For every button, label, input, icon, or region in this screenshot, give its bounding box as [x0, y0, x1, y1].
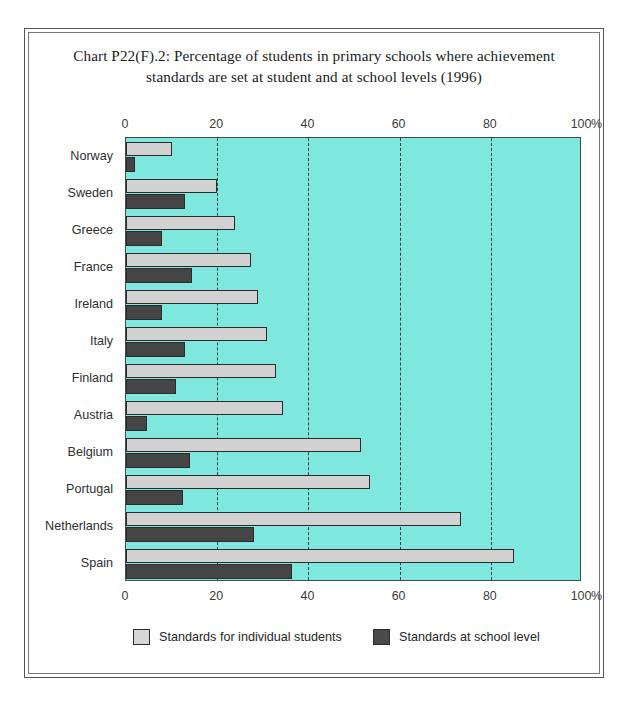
bar-individual-students	[126, 364, 276, 379]
x-tick-label: 100	[571, 117, 592, 131]
bar-group	[126, 360, 580, 397]
category-label-ireland: Ireland	[74, 297, 113, 311]
bar-school-level	[126, 490, 183, 505]
bar-school-level	[126, 231, 162, 246]
x-tick-label: 40	[300, 117, 314, 131]
bar-school-level	[126, 157, 135, 172]
x-axis-unit-label: %	[591, 589, 602, 603]
bar-school-level	[126, 453, 190, 468]
category-label-france: France	[74, 260, 113, 274]
legend-entry: Standards at school level	[373, 629, 540, 645]
category-label-greece: Greece	[72, 223, 113, 237]
category-label-spain: Spain	[81, 556, 113, 570]
bar-individual-students	[126, 401, 283, 416]
category-label-norway: Norway	[70, 149, 113, 163]
x-tick-label: 60	[392, 589, 406, 603]
chart-inner-frame: Chart P22(F).2: Percentage of students i…	[28, 32, 600, 674]
bar-school-level	[126, 268, 192, 283]
bar-school-level	[126, 379, 176, 394]
category-label-netherlands: Netherlands	[45, 519, 113, 533]
x-tick-label: 0	[122, 589, 129, 603]
legend-label: Standards at school level	[399, 630, 540, 644]
x-tick-label: 0	[122, 117, 129, 131]
bar-group	[126, 138, 580, 175]
x-tick-label: 80	[483, 117, 497, 131]
chart-legend: Standards for individual studentsStandar…	[125, 629, 545, 653]
bar-individual-students	[126, 327, 267, 342]
plot-area	[125, 137, 581, 581]
bar-group	[126, 212, 580, 249]
x-tick-label: 100	[571, 589, 592, 603]
x-axis-top: 020406080100%	[125, 117, 581, 133]
bar-individual-students	[126, 142, 172, 157]
legend-entry: Standards for individual students	[133, 629, 342, 645]
bar-group	[126, 323, 580, 360]
bar-group	[126, 545, 580, 582]
bar-group	[126, 434, 580, 471]
bar-school-level	[126, 305, 162, 320]
bar-individual-students	[126, 512, 461, 527]
x-axis-bottom: 020406080100%	[125, 589, 581, 605]
bar-group	[126, 508, 580, 545]
category-label-finland: Finland	[72, 371, 113, 385]
legend-swatch-light	[133, 629, 150, 645]
category-label-belgium: Belgium	[68, 445, 114, 459]
x-tick-label: 20	[209, 589, 223, 603]
y-axis-category-labels: NorwaySwedenGreeceFranceIrelandItalyFinl…	[29, 137, 119, 581]
bar-school-level	[126, 416, 147, 431]
x-tick-label: 80	[483, 589, 497, 603]
bar-group	[126, 397, 580, 434]
bars-layer	[126, 138, 580, 580]
bar-school-level	[126, 194, 185, 209]
bar-individual-students	[126, 475, 370, 490]
bar-individual-students	[126, 438, 361, 453]
x-axis-unit-label: %	[591, 117, 602, 131]
category-label-italy: Italy	[90, 334, 113, 348]
legend-swatch-dark	[373, 629, 390, 645]
bar-group	[126, 286, 580, 323]
bar-school-level	[126, 564, 292, 579]
x-tick-label: 20	[209, 117, 223, 131]
bar-group	[126, 249, 580, 286]
x-tick-label: 60	[392, 117, 406, 131]
bar-individual-students	[126, 179, 217, 194]
bar-individual-students	[126, 253, 251, 268]
category-label-austria: Austria	[74, 408, 113, 422]
category-label-sweden: Sweden	[67, 186, 113, 200]
bar-individual-students	[126, 216, 235, 231]
plot-wrapper: 020406080100% NorwaySwedenGreeceFranceIr…	[29, 33, 603, 677]
legend-label: Standards for individual students	[159, 630, 342, 644]
chart-outer-frame: Chart P22(F).2: Percentage of students i…	[24, 28, 604, 678]
bar-individual-students	[126, 290, 258, 305]
bar-individual-students	[126, 549, 514, 564]
bar-school-level	[126, 527, 254, 542]
bar-school-level	[126, 342, 185, 357]
category-label-portugal: Portugal	[66, 482, 113, 496]
bar-group	[126, 471, 580, 508]
x-tick-label: 40	[300, 589, 314, 603]
bar-group	[126, 175, 580, 212]
